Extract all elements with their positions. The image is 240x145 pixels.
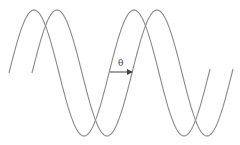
phase-shift-diagram: θ bbox=[0, 0, 240, 145]
theta-label: θ bbox=[118, 58, 123, 68]
reference-wave bbox=[9, 10, 210, 136]
shifted-wave bbox=[32, 10, 233, 136]
